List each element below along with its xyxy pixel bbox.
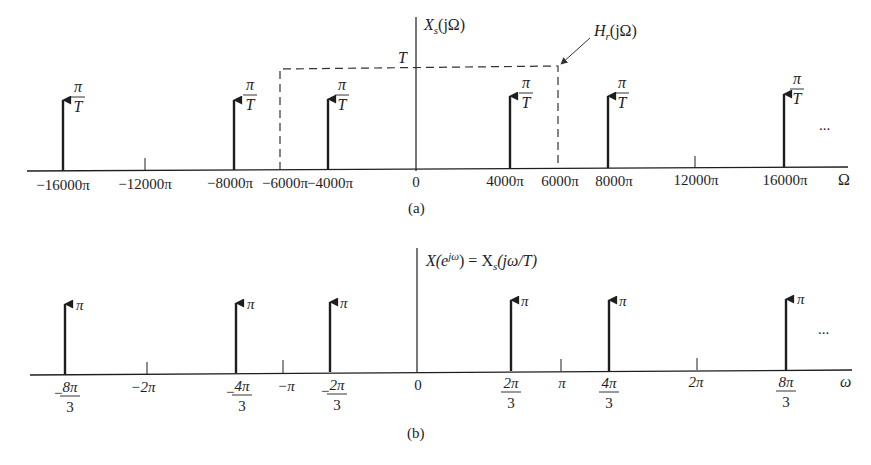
impulse-num: π bbox=[618, 74, 627, 91]
y-label-b: X(ejω) = Xs(jω/T) bbox=[425, 250, 537, 272]
tick-label-zero: 0 bbox=[414, 377, 422, 393]
omega-axis-b bbox=[30, 370, 852, 375]
impulse-num: π bbox=[338, 76, 347, 93]
svg-text:−: − bbox=[226, 384, 234, 400]
impulse-label: π bbox=[797, 291, 805, 307]
impulse-num: π bbox=[74, 78, 83, 95]
tick-label-m8pi3: − 8π 3 bbox=[54, 379, 80, 415]
filter-height-label: T bbox=[398, 49, 408, 66]
omega-axis bbox=[27, 167, 848, 171]
svg-text:4π: 4π bbox=[234, 378, 250, 394]
tick-label: 4000π bbox=[486, 173, 524, 189]
ellipsis-a: ... bbox=[819, 117, 830, 133]
caption-b: (b) bbox=[407, 425, 425, 442]
impulse-den: T bbox=[74, 98, 84, 115]
svg-text:4π: 4π bbox=[601, 375, 617, 391]
tick-label: 16000π bbox=[762, 172, 808, 188]
impulse-den: T bbox=[338, 96, 348, 113]
tick-label-m4pi3: − 4π 3 bbox=[226, 378, 252, 414]
impulse-den: T bbox=[618, 94, 628, 111]
omega-axis-label-b: ω bbox=[840, 373, 851, 390]
svg-text:3: 3 bbox=[333, 397, 341, 413]
y-label-a: Xs(jΩ) bbox=[423, 16, 465, 36]
tick-label: −4000π bbox=[307, 175, 353, 191]
svg-text:3: 3 bbox=[507, 395, 515, 411]
tick-label-m2pi: −2π bbox=[130, 379, 156, 395]
impulses-b bbox=[65, 299, 786, 375]
tick-label: −8000π bbox=[207, 175, 253, 191]
svg-text:3: 3 bbox=[605, 395, 613, 411]
tick-labels-a: −16000π −12000π −8000π −6000π −4000π 0 4… bbox=[36, 172, 808, 193]
impulse-label: π bbox=[76, 297, 84, 313]
impulse-num: π bbox=[246, 76, 255, 93]
omega-axis-label: Ω bbox=[838, 171, 850, 188]
svg-text:8π: 8π bbox=[778, 374, 794, 390]
tick-label-p8pi3: 8π 3 bbox=[776, 374, 796, 410]
tick-label: 8000π bbox=[595, 173, 633, 189]
impulse-den: T bbox=[246, 96, 256, 113]
filter-label: Hr(jΩ) bbox=[593, 22, 637, 42]
tick-label-m2pi3: − 2π 3 bbox=[321, 377, 347, 413]
ellipsis-b: ... bbox=[818, 321, 829, 337]
tick-label: −12000π bbox=[118, 176, 172, 192]
svg-text:2π: 2π bbox=[503, 375, 519, 391]
tick-label: 6000π bbox=[541, 173, 579, 189]
hr-filter-dashed bbox=[280, 66, 558, 170]
impulse-label: π bbox=[340, 295, 348, 311]
tick-label-2pi: 2π bbox=[688, 374, 704, 390]
svg-text:8π: 8π bbox=[62, 379, 78, 395]
impulses-a bbox=[63, 94, 784, 171]
tick-label: 12000π bbox=[673, 172, 719, 188]
impulse-num: π bbox=[793, 70, 802, 87]
panel-b: π π π π π π ... X(ejω) = Xs(jω/T) − 8π 3… bbox=[30, 248, 852, 442]
tick-label-p4pi3: 4π 3 bbox=[599, 375, 619, 411]
svg-text:2π: 2π bbox=[329, 377, 345, 393]
hr-pointer-arrow bbox=[561, 38, 590, 64]
impulse-den: T bbox=[793, 90, 803, 107]
svg-text:3: 3 bbox=[782, 394, 790, 410]
impulse-den: T bbox=[522, 94, 532, 111]
impulse-labels-a: π T π T π T π T π T bbox=[71, 70, 804, 115]
panel-a: π T π T π T π T π T bbox=[27, 16, 850, 217]
impulse-label: π bbox=[619, 293, 627, 309]
tick-label: −16000π bbox=[36, 177, 90, 193]
impulse-label: π bbox=[521, 293, 529, 309]
caption-a: (a) bbox=[408, 200, 425, 217]
tick-label: 0 bbox=[412, 174, 420, 190]
tick-labels-b: − 8π 3 −2π − 4π 3 −π − 2π 3 0 bbox=[54, 374, 796, 415]
impulse-labels-b: π π π π π π bbox=[76, 291, 805, 313]
impulse-label: π bbox=[247, 296, 255, 312]
tick-label: −6000π bbox=[262, 175, 308, 191]
tick-label-pi: π bbox=[558, 375, 566, 391]
svg-text:−: − bbox=[54, 385, 62, 401]
figure: π T π T π T π T π T bbox=[0, 0, 871, 465]
svg-text:3: 3 bbox=[66, 399, 74, 415]
tick-label-mpi: −π bbox=[277, 378, 295, 394]
tick-label-p2pi3: 2π 3 bbox=[501, 375, 521, 411]
svg-text:3: 3 bbox=[238, 398, 246, 414]
svg-text:−: − bbox=[321, 383, 329, 399]
impulse-num: π bbox=[522, 74, 531, 91]
